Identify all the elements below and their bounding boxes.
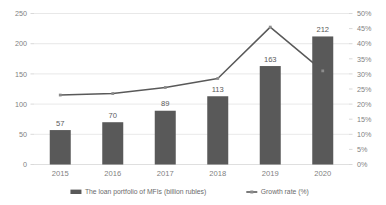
category-label-2018: 2018 bbox=[209, 169, 226, 178]
right-axis-tick-50%: 50% bbox=[357, 9, 372, 18]
left-axis-tick-250: 250 bbox=[15, 9, 27, 18]
growth-rate-point-2019 bbox=[269, 26, 272, 29]
category-label-2017: 2017 bbox=[157, 169, 174, 178]
left-axis-tick-100: 100 bbox=[15, 100, 27, 109]
category-label-2016: 2016 bbox=[104, 169, 121, 178]
bar-label-2015: 57 bbox=[56, 119, 64, 128]
growth-rate-point-2018 bbox=[216, 77, 219, 80]
bar-label-2020: 212 bbox=[316, 25, 329, 34]
right-axis-tick-0%: 0% bbox=[357, 160, 368, 169]
growth-rate-point-2020 bbox=[321, 69, 324, 72]
right-axis-tick-45%: 45% bbox=[357, 24, 372, 33]
bar-label-2018: 113 bbox=[212, 85, 224, 94]
chart-legend: The loan portfolio of MFIs (billion rubl… bbox=[70, 188, 308, 196]
bar-2018 bbox=[207, 96, 228, 164]
growth-rate-point-2017 bbox=[164, 86, 167, 89]
category-label-2015: 2015 bbox=[52, 169, 69, 178]
combo-chart: 050100150200250 0%5%10%15%20%25%30%35%40… bbox=[0, 0, 386, 205]
right-axis-tick-30%: 30% bbox=[357, 70, 372, 79]
right-axis-tick-10%: 10% bbox=[357, 130, 372, 139]
bar-2017 bbox=[155, 111, 176, 165]
right-axis-tick-20%: 20% bbox=[357, 100, 372, 109]
right-axis-tick-40%: 40% bbox=[357, 39, 372, 48]
chart-canvas: 050100150200250 0%5%10%15%20%25%30%35%40… bbox=[0, 0, 386, 205]
left-axis-tick-150: 150 bbox=[15, 70, 27, 79]
category-label-2020: 2020 bbox=[314, 169, 331, 178]
bar-2020 bbox=[312, 36, 333, 164]
right-axis-tick-35%: 35% bbox=[357, 55, 372, 64]
left-axis-tick-0: 0 bbox=[23, 160, 27, 169]
bar-2016 bbox=[102, 122, 123, 164]
category-label-2019: 2019 bbox=[262, 169, 279, 178]
left-axis-tick-50: 50 bbox=[19, 130, 27, 139]
bar-label-2016: 70 bbox=[109, 111, 117, 120]
legend-label-growth-rate: Growth rate (%) bbox=[261, 188, 309, 196]
bar-2019 bbox=[260, 66, 281, 164]
right-axis-tick-25%: 25% bbox=[357, 85, 372, 94]
legend-swatch-line-marker bbox=[250, 191, 253, 194]
growth-rate-point-2015 bbox=[59, 94, 62, 97]
left-axis-tick-200: 200 bbox=[15, 39, 27, 48]
bar-label-2019: 163 bbox=[264, 55, 277, 64]
bar-label-2017: 89 bbox=[161, 99, 169, 108]
bar-2015 bbox=[50, 130, 71, 164]
right-axis-tick-15%: 15% bbox=[357, 115, 372, 124]
growth-rate-point-2016 bbox=[111, 92, 114, 95]
legend-label-loan-portfolio: The loan portfolio of MFIs (billion rubl… bbox=[85, 188, 206, 196]
legend-swatch-bar bbox=[70, 190, 81, 194]
right-axis-tick-5%: 5% bbox=[357, 145, 368, 154]
